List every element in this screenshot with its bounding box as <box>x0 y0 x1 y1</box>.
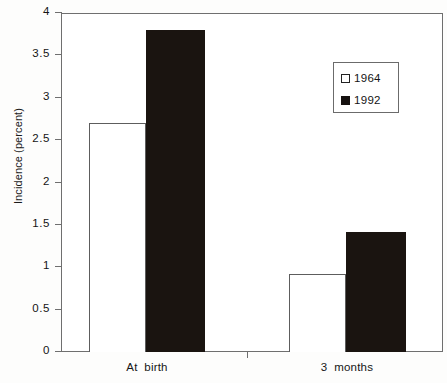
y-axis-tick-mark <box>55 54 62 55</box>
legend-entry-label: 1992 <box>354 94 381 106</box>
bar-chart-figure: Incidence (percent) 43.532.521.510.50 At… <box>0 0 447 383</box>
bar-1964-3-months <box>289 274 346 352</box>
y-axis-tick-mark <box>55 266 62 267</box>
y-axis-tick-label: 3 <box>0 90 50 102</box>
legend-entry-1992: 1992 <box>341 94 381 106</box>
bar-1992-at-birth <box>146 30 205 352</box>
y-axis-tick-label: 0.5 <box>0 302 50 314</box>
y-axis-tick-label: 0 <box>0 344 50 356</box>
y-axis-tick-label: 2 <box>0 175 50 187</box>
y-axis-tick-label: 1 <box>0 259 50 271</box>
legend-entry-label: 1964 <box>354 72 381 84</box>
bar-1964-at-birth <box>89 123 146 352</box>
y-axis-tick-label: 3.5 <box>0 47 50 59</box>
y-axis-tick-mark <box>55 12 62 13</box>
legend-swatch-icon <box>341 74 350 83</box>
bar-1992-3-months <box>346 232 406 352</box>
legend-entry-1964: 1964 <box>341 72 381 84</box>
y-axis-tick-mark <box>55 139 62 140</box>
y-axis-tick-label: 4 <box>0 5 50 17</box>
legend-swatch-icon <box>341 96 350 105</box>
y-axis-tick-label: 1.5 <box>0 217 50 229</box>
y-axis-tick-mark <box>55 309 62 310</box>
y-axis-tick-mark <box>55 97 62 98</box>
y-axis-tick-mark <box>55 224 62 225</box>
x-axis-category-label: At birth <box>87 361 207 373</box>
y-axis-tick-label: 2.5 <box>0 132 50 144</box>
legend: 19641992 <box>333 62 399 113</box>
x-axis-category-label: 3 months <box>287 361 407 373</box>
y-axis-title: Incidence (percent) <box>12 86 24 226</box>
x-axis-group-divider-tick <box>247 352 248 358</box>
y-axis-tick-mark <box>55 182 62 183</box>
y-axis-tick-mark <box>55 351 62 352</box>
